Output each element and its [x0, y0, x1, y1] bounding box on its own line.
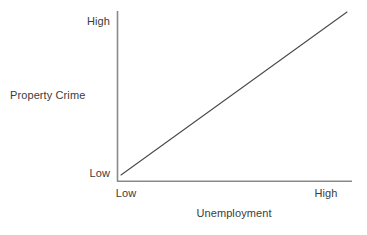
y-axis-title: Property Crime — [10, 89, 106, 102]
trend-line-series — [121, 12, 347, 175]
line-chart: High Low Property Crime Low High Unemplo… — [0, 0, 367, 235]
chart-screenshot: High Low Property Crime Low High Unemplo… — [0, 0, 367, 235]
x-axis-title: Unemployment — [174, 207, 294, 220]
x-axis-tick-label-low: Low — [104, 187, 148, 200]
y-axis-tick-label-high: High — [58, 15, 110, 28]
y-axis-tick-label-low: Low — [58, 167, 110, 180]
x-axis-tick-label-high: High — [304, 187, 348, 200]
